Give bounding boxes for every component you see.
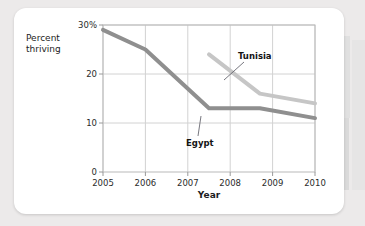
x-tick-label: 2005 [85,178,121,189]
axis-ticks [99,25,315,176]
series-label-tunisia: Tunisia [238,51,272,61]
y-tick-label: 30% [57,20,97,31]
x-axis-title: Year [103,190,315,200]
x-tick-label: 2006 [127,178,163,189]
y-tick-label: 20 [57,69,97,80]
x-tick-label: 2007 [170,178,206,189]
annotation-leader-lines [198,62,244,136]
x-tick-label: 2008 [212,178,248,189]
x-tick-label: 2010 [297,178,333,189]
line-chart: Percent thriving 0102030% 20052006200720… [0,0,365,226]
y-tick-label: 10 [57,118,97,129]
x-tick-label: 2009 [255,178,291,189]
y-tick-label: 0 [57,167,97,178]
series-label-egypt: Egypt [186,138,214,148]
